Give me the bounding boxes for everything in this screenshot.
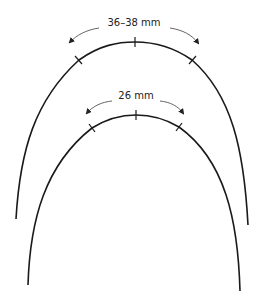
outer-arch-measurement-label: 36–38 mm (107, 17, 160, 28)
outer-arch-curve (16, 42, 248, 225)
outer-arrow-right (170, 28, 198, 43)
inner-arrow-right (160, 101, 183, 113)
inner-arch-curve (28, 115, 240, 291)
inner-arrow-left (87, 101, 112, 113)
arch-diagram (0, 0, 260, 305)
inner-arch-measurement-label: 26 mm (118, 90, 153, 101)
inner-arch (28, 101, 240, 291)
inner-tick-left (89, 124, 95, 132)
inner-tick-right (176, 123, 182, 131)
outer-arrow-left (70, 28, 99, 42)
outer-arch (16, 28, 248, 225)
